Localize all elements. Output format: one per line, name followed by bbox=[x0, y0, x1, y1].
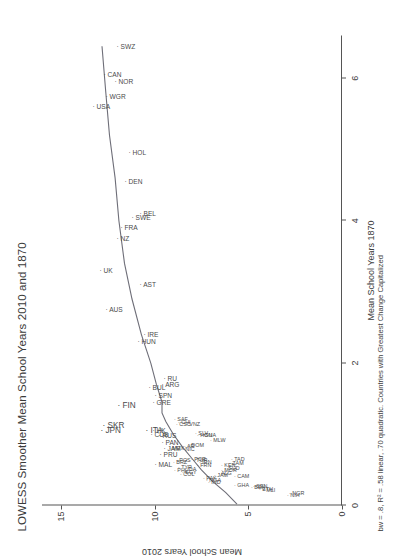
data-point-label: · SKR bbox=[103, 421, 125, 430]
x-tick bbox=[342, 77, 346, 78]
chart-title: LOWESS Smoother Mean School Years 2010 a… bbox=[16, 242, 28, 531]
data-point-label: · WGR bbox=[106, 92, 126, 99]
data-point-label: · HOL bbox=[128, 149, 146, 156]
y-tick-label: 0 bbox=[337, 511, 347, 527]
data-point-label: · RUS bbox=[158, 432, 176, 439]
x-tick-label: 0 bbox=[350, 502, 360, 507]
y-tick bbox=[61, 505, 62, 509]
figure-page: LOWESS Smoother Mean School Years 2010 a… bbox=[0, 0, 400, 559]
y-tick bbox=[342, 505, 343, 509]
data-point-label: · NZ bbox=[117, 234, 130, 241]
data-point-label: · MLW bbox=[210, 437, 225, 443]
data-point-label: · HUN bbox=[137, 338, 155, 345]
data-point-label: · CAN bbox=[104, 71, 122, 78]
chart-figure: LOWESS Smoother Mean School Years 2010 a… bbox=[0, 0, 400, 559]
data-point-label: · AUS bbox=[106, 306, 123, 313]
data-point-label: · FRN bbox=[197, 461, 211, 467]
x-tick bbox=[342, 219, 346, 220]
data-point-label: · IND bbox=[208, 478, 221, 484]
y-tick-label: 5 bbox=[243, 511, 253, 527]
x-axis-label: Mean School Years 1870 bbox=[366, 35, 376, 505]
lowess-curve-svg bbox=[42, 35, 342, 505]
data-point-label: · MAL bbox=[154, 460, 172, 467]
x-tick-label: 4 bbox=[350, 218, 360, 223]
data-point-label: · AST bbox=[139, 281, 156, 288]
data-point-label: · DEN bbox=[124, 178, 142, 185]
data-point-label: · FRA bbox=[121, 224, 138, 231]
y-tick bbox=[155, 505, 156, 509]
data-point-label: · RU bbox=[164, 375, 178, 382]
data-point-label: · MLI bbox=[263, 486, 275, 492]
data-point-label: · COL bbox=[180, 470, 194, 476]
y-tick-label: 10 bbox=[150, 511, 160, 527]
data-point-label: · GHA bbox=[234, 481, 249, 487]
data-point-label: · DOM bbox=[188, 441, 204, 447]
data-point-label: · SPN bbox=[154, 391, 172, 398]
data-point-label: · IRE bbox=[143, 331, 158, 338]
data-point-label: · CAM bbox=[234, 472, 249, 478]
data-point-label: · FIN bbox=[118, 401, 136, 410]
y-axis-label: Mean School Years 2010 bbox=[142, 546, 242, 556]
chart-subtitle: bw = .8, R² = .58 linear, .70 quadratic.… bbox=[376, 255, 385, 531]
data-point-label: · POS bbox=[176, 456, 191, 462]
data-point-label: · NOR bbox=[115, 78, 134, 85]
data-point-label: · GRE bbox=[152, 398, 170, 405]
y-tick-label: 15 bbox=[56, 511, 66, 527]
data-point-label: · NGR bbox=[289, 489, 304, 495]
data-point-label: · VNZ bbox=[186, 420, 200, 426]
x-tick-label: 2 bbox=[350, 360, 360, 365]
data-point-label: · SWE bbox=[132, 213, 151, 220]
x-tick bbox=[342, 362, 346, 363]
data-point-label: · TAD bbox=[231, 455, 245, 461]
y-tick bbox=[248, 505, 249, 509]
data-point-label: · UK bbox=[100, 267, 113, 274]
plot-area: · SWZ· CAN· WGR· NOR· USA· HOL· DEN· BEL… bbox=[42, 35, 342, 505]
x-tick-label: 6 bbox=[350, 75, 360, 80]
data-point-label: · BUL bbox=[149, 384, 166, 391]
data-point-label: · SWZ bbox=[117, 42, 136, 49]
data-point-label: · USA bbox=[92, 103, 110, 110]
